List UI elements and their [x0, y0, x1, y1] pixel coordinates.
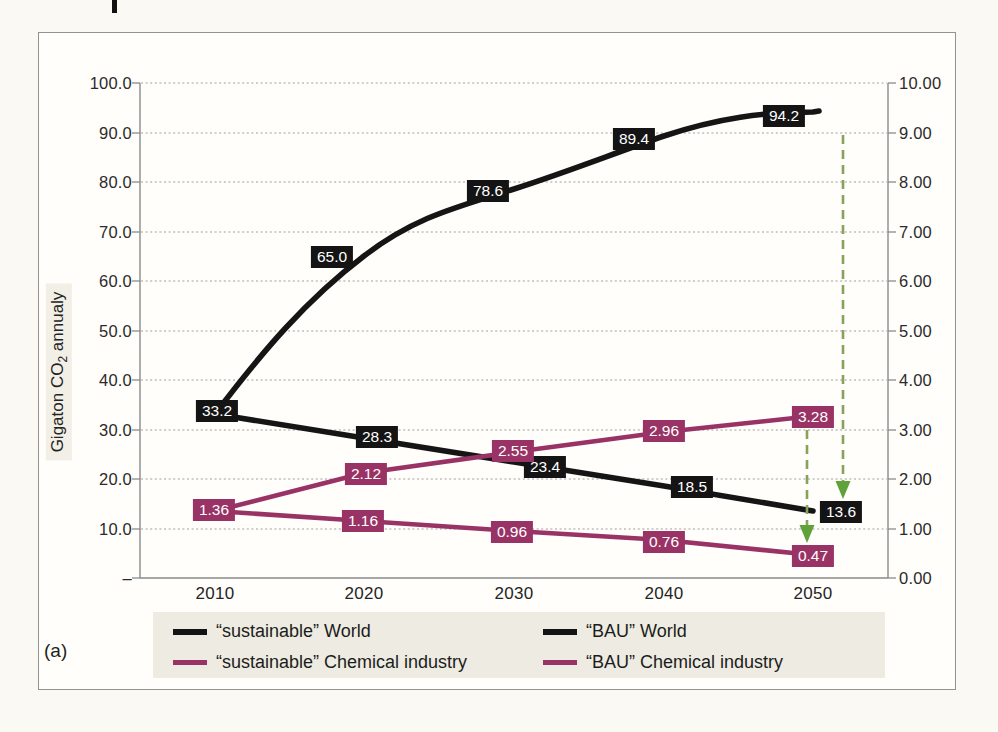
bau-world-line-swatch	[543, 629, 577, 635]
left-axis-tick-label: 40.0	[56, 370, 132, 390]
value-label-world-2010: 33.2	[196, 400, 238, 422]
left-axis-tick-label: 20.0	[56, 469, 132, 489]
right-axis-tick-label: 2.00	[899, 469, 971, 489]
legend-label: “BAU” Chemical industry	[586, 652, 783, 673]
value-label-bau-world-2020: 65.0	[311, 246, 353, 268]
left-axis-title-subscript: 2	[56, 356, 70, 363]
value-label-sustainable-world-2020: 28.3	[356, 426, 398, 448]
value-label-bau-world-2030: 78.6	[467, 180, 509, 202]
x-axis-label-2040: 2040	[619, 584, 709, 604]
right-axis-tick-label: 8.00	[899, 172, 971, 192]
bau-world-line	[215, 111, 819, 414]
left-axis-tick-label: 50.0	[56, 321, 132, 341]
right-axis-tick-label: 9.00	[899, 123, 971, 143]
left-axis-tick-label: 70.0	[56, 222, 132, 242]
left-axis-tick-label: 80.0	[56, 172, 132, 192]
right-axis-tick-label: 4.00	[899, 370, 971, 390]
left-axis-tick-label: 30.0	[56, 420, 132, 440]
value-label-bau-world-2050: 94.2	[763, 105, 805, 127]
value-label-sustainable-chemical-2030: 0.96	[491, 521, 533, 543]
sustainable-world-line-swatch	[173, 629, 207, 635]
legend-label: “BAU” World	[586, 621, 687, 642]
value-label-sustainable-chemical-2020: 1.16	[342, 510, 384, 532]
right-axis-tick-label: 5.00	[899, 321, 971, 341]
x-axis-label-2050: 2050	[768, 584, 858, 604]
scanned-figure-page: { "figure": { "panel_label": "(a)" }, "c…	[0, 0, 998, 732]
right-axis-tick-label: 1.00	[899, 519, 971, 539]
right-axis-tick-label: 10.00	[899, 73, 971, 93]
left-axis-tick-label: 90.0	[56, 123, 132, 143]
x-axis-label-2030: 2030	[469, 584, 559, 604]
legend-label: “sustainable” Chemical industry	[216, 652, 467, 673]
x-axis-label-2020: 2020	[319, 584, 409, 604]
chemical-reduction-arrow	[800, 430, 815, 543]
sustainable-chemical-line-swatch	[173, 660, 207, 665]
value-label-sustainable-chemical-2040: 0.76	[643, 531, 685, 553]
x-axis-label-2010: 2010	[170, 584, 260, 604]
value-label-bau-chemical-2050: 3.28	[792, 406, 834, 428]
left-axis-tick-label: 100.0	[56, 73, 132, 93]
left-axis-tick-label: 10.0	[56, 519, 132, 539]
right-axis-tick-label: 3.00	[899, 420, 971, 440]
value-label-bau-world-2040: 89.4	[613, 128, 655, 150]
bau-chemical-line-swatch	[543, 660, 577, 665]
legend-item-sustainable-chemical: “sustainable” Chemical industry	[173, 652, 467, 673]
value-label-bau-chemical-2020: 2.12	[345, 463, 387, 485]
value-label-sustainable-world-2050: 13.6	[820, 501, 862, 523]
right-axis-tick-label: 0.00	[899, 568, 971, 588]
right-axis-tick-label: 6.00	[899, 271, 971, 291]
value-label-sustainable-chemical-2050: 0.47	[792, 545, 834, 567]
world-reduction-arrow	[836, 135, 851, 499]
panel-label: (a)	[44, 640, 67, 662]
legend-item-bau-world: “BAU” World	[543, 621, 687, 642]
legend-label: “sustainable” World	[216, 621, 371, 642]
value-label-bau-chemical-2030: 2.55	[492, 440, 534, 462]
left-axis-zero-dash: –	[56, 568, 132, 588]
legend-item-bau-chemical: “BAU” Chemical industry	[543, 652, 783, 673]
legend-item-sustainable-world: “sustainable” World	[173, 621, 371, 642]
left-axis-tick-label: 60.0	[56, 271, 132, 291]
value-label-sustainable-world-2040: 18.5	[671, 476, 713, 498]
legend: “sustainable” World “BAU” World “sustain…	[153, 612, 885, 678]
value-label-bau-chemical-2040: 2.96	[643, 420, 685, 442]
value-label-chemical-2010: 1.36	[193, 499, 235, 521]
sustainable-world-line	[215, 414, 813, 511]
right-axis-tick-label: 7.00	[899, 222, 971, 242]
